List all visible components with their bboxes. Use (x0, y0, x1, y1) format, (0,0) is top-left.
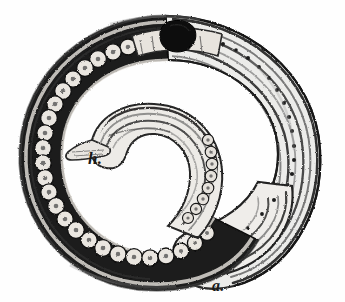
figure-label-h: h. (88, 150, 102, 167)
worm-figure (0, 0, 345, 302)
engraving-plate: h. a. (0, 0, 345, 302)
dark-organ-mass (160, 20, 196, 52)
figure-label-a: a. (212, 278, 225, 294)
